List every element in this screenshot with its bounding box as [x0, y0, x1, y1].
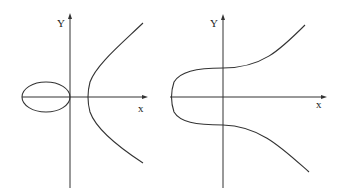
right-x-label: x	[316, 98, 322, 110]
diagram-canvas: Y x Y x	[0, 0, 341, 195]
left-x-arrow-icon	[142, 95, 148, 99]
right-y-arrow-icon	[221, 14, 225, 20]
left-unbounded-branch	[88, 23, 143, 163]
right-connected-curve	[172, 25, 310, 172]
right-x-arrow-icon	[321, 95, 327, 99]
left-panel: Y x	[22, 13, 148, 188]
left-y-arrow-icon	[68, 13, 72, 19]
right-y-label: Y	[210, 17, 218, 29]
right-panel: Y x	[170, 14, 327, 188]
left-y-label: Y	[57, 17, 65, 29]
left-x-label: x	[138, 102, 144, 114]
